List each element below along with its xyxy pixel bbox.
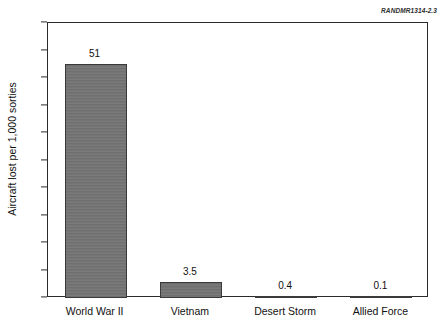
x-tick-label: Allied Force xyxy=(353,306,408,317)
bar-value-label: 0.1 xyxy=(373,281,387,291)
y-axis-title: Aircraft lost per 1,000 sorties xyxy=(2,0,22,297)
bar-value-label: 51 xyxy=(89,49,100,59)
report-id-label: RANDMR1314-2.3 xyxy=(381,7,437,14)
bar xyxy=(350,296,412,298)
figure-container: RANDMR1314-2.3 Aircraft lost per 1,000 s… xyxy=(0,0,443,336)
bar xyxy=(65,64,127,298)
y-axis-title-text: Aircraft lost per 1,000 sorties xyxy=(6,82,18,216)
plot-area xyxy=(47,22,428,297)
x-tick-label: World War II xyxy=(66,306,124,317)
x-tick-label: Desert Storm xyxy=(254,306,316,317)
bar-value-label: 0.4 xyxy=(278,281,292,291)
bar xyxy=(255,296,317,298)
x-tick-label: Vietnam xyxy=(171,306,209,317)
bar-value-label: 3.5 xyxy=(183,267,197,277)
bar xyxy=(160,282,222,298)
